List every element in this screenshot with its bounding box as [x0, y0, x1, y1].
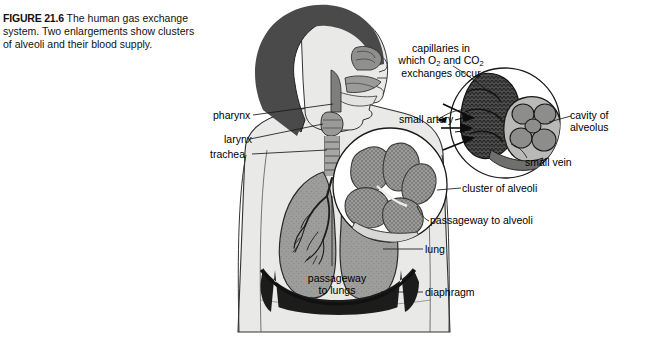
label-small-vein: small vein	[525, 156, 572, 168]
label-cluster-of-alveoli: cluster of alveoli	[462, 182, 537, 194]
label-passageway-to-alveoli: passageway to alveoli	[430, 214, 533, 226]
figure-number: FIGURE 21.6	[3, 12, 64, 24]
label-small-artery: small artery	[399, 113, 453, 125]
label-cavity-of-alveolus: cavity of alveolus	[570, 110, 642, 134]
label-passageway-to-lungs-line2: to lungs	[319, 284, 356, 296]
label-diaphragm: diaphragm	[425, 286, 475, 298]
label-pharynx: pharynx	[213, 109, 250, 121]
label-passageway-to-lungs-line1: passageway	[308, 272, 366, 284]
co2-subscript: 2	[480, 59, 484, 68]
label-larynx: larynx	[224, 133, 252, 145]
o2-subscript: 2	[436, 59, 440, 68]
figure-caption: FIGURE 21.6 The human gas exchange syste…	[3, 12, 199, 52]
label-passageway-to-lungs: passageway to lungs	[287, 273, 387, 296]
label-lung: lung	[425, 243, 445, 255]
label-capillaries-line2b: and CO	[440, 54, 479, 66]
label-capillaries-line3: exchanges occur	[401, 67, 480, 79]
label-capillaries-line1: capillaries in	[412, 42, 470, 54]
figure-container: FIGURE 21.6 The human gas exchange syste…	[0, 0, 650, 359]
label-capillaries: capillaries in which O2 and CO2 exchange…	[381, 43, 501, 79]
label-capillaries-line2a: which O	[398, 54, 436, 66]
label-trachea: trachea	[210, 148, 245, 160]
